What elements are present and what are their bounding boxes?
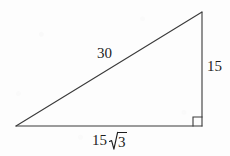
radicand-label: 3	[118, 132, 127, 152]
hypotenuse-line	[16, 12, 202, 126]
square-root-expression: 3	[109, 131, 127, 152]
hypotenuse-label: 30	[97, 46, 112, 61]
base-label-coefficient: 15	[92, 131, 107, 150]
base-label: 15 3	[92, 131, 127, 152]
radical-sign-icon	[109, 131, 118, 150]
vertical-leg-label: 15	[207, 59, 222, 74]
triangle-figure: 30 15 15 3	[0, 0, 230, 156]
right-angle-marker-icon	[193, 117, 202, 126]
